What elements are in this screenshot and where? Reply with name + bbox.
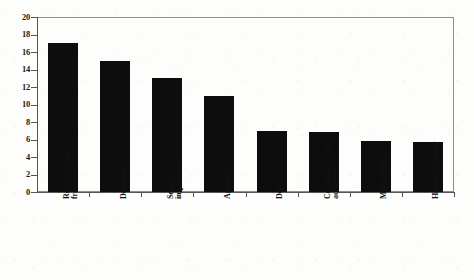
x-axis-label-line: Malnutrition bbox=[380, 156, 389, 199]
x-axis-label-line: Depression bbox=[276, 162, 285, 199]
bar-chart-figure: 02468101214161820 Recovery fromfractureD… bbox=[0, 0, 474, 280]
x-axis-label-line: History of cancer bbox=[432, 142, 441, 199]
y-axis-tick-label: 18 bbox=[4, 30, 30, 39]
x-axis-label-line: accident bbox=[332, 143, 340, 199]
y-axis-tick-label: 12 bbox=[4, 83, 30, 92]
x-axis-category-label: Sensoryimpairment bbox=[167, 160, 184, 199]
x-axis-category-label: Arthritis bbox=[224, 170, 233, 199]
y-axis-tick-label: 8 bbox=[4, 118, 30, 127]
y-axis-tick-label: 10 bbox=[4, 100, 30, 109]
x-axis-category-labels: Recovery fromfractureDementiaSensoryimpa… bbox=[37, 197, 454, 280]
x-axis-category-label: Depression bbox=[276, 162, 285, 199]
x-axis-label-line: Arthritis bbox=[224, 170, 233, 199]
x-axis-category-label: History of cancer bbox=[432, 142, 441, 199]
bar-series bbox=[37, 17, 454, 192]
x-axis-label-line: Dementia bbox=[120, 167, 129, 199]
x-axis-category-label: Cerebrovascularaccident bbox=[324, 143, 341, 199]
x-axis-label-line: impairment bbox=[176, 160, 184, 199]
y-axis-tick bbox=[31, 192, 37, 193]
x-axis-label-line: fracture bbox=[71, 150, 79, 199]
y-axis-tick-label: 4 bbox=[4, 153, 30, 162]
y-axis-tick-label: 6 bbox=[4, 135, 30, 144]
x-axis-category-label: Malnutrition bbox=[380, 156, 389, 199]
y-axis-tick-label: 16 bbox=[4, 48, 30, 57]
x-axis-tick bbox=[454, 192, 455, 197]
y-axis-tick-label: 14 bbox=[4, 65, 30, 74]
x-axis-category-label: Dementia bbox=[120, 167, 129, 199]
y-axis-tick-label: 2 bbox=[4, 170, 30, 179]
y-axis-labels: 02468101214161820 bbox=[0, 0, 30, 280]
y-axis-tick-label: 0 bbox=[4, 188, 30, 197]
y-axis-tick-label: 20 bbox=[4, 13, 30, 22]
x-axis-category-label: Recovery fromfracture bbox=[63, 150, 80, 199]
